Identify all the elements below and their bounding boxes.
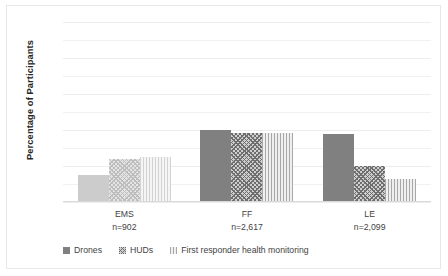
category-name: FF — [186, 208, 309, 221]
bar-le-series-2[interactable] — [385, 179, 416, 202]
plot-area: 100%80%60%40%20%0% — [63, 22, 431, 202]
bar-le-series-1[interactable] — [354, 166, 385, 202]
legend-label: First responder health monitoring — [181, 245, 308, 255]
legend-swatch-icon — [63, 247, 70, 254]
y-axis-title: Percentage of Participants — [25, 10, 35, 190]
bar-group-ff — [186, 22, 309, 202]
category-sample-size: n=2,099 — [308, 221, 431, 234]
category-name: LE — [308, 208, 431, 221]
bar-ff-series-2[interactable] — [262, 133, 293, 202]
legend-label: Drones — [74, 245, 102, 255]
legend-item-1[interactable]: HUDs — [119, 245, 153, 255]
bar-ems-series-0[interactable] — [78, 175, 109, 202]
legend-swatch-icon — [119, 247, 126, 254]
x-axis-line — [63, 201, 431, 202]
bar-le-series-0[interactable] — [323, 134, 354, 202]
gridline — [63, 202, 431, 203]
bar-group-ems — [63, 22, 186, 202]
legend-item-0[interactable]: Drones — [63, 245, 102, 255]
category-sample-size: n=2,617 — [186, 221, 309, 234]
bar-group-le — [308, 22, 431, 202]
legend-item-2[interactable]: First responder health monitoring — [170, 245, 308, 255]
bar-chart: Percentage of Participants 100%80%60%40%… — [0, 0, 448, 276]
category-label-ems: EMSn=902 — [63, 208, 186, 233]
bars-layer — [63, 22, 431, 202]
bar-ems-series-1[interactable] — [109, 159, 140, 202]
category-sample-size: n=902 — [63, 221, 186, 234]
legend-label: HUDs — [130, 245, 153, 255]
legend-swatch-icon — [170, 247, 177, 254]
category-name: EMS — [63, 208, 186, 221]
chart-legend: DronesHUDsFirst responder health monitor… — [63, 245, 431, 255]
bar-ems-series-2[interactable] — [140, 157, 171, 202]
category-label-ff: FFn=2,617 — [186, 208, 309, 233]
bar-ff-series-1[interactable] — [231, 133, 262, 202]
category-label-le: LEn=2,099 — [308, 208, 431, 233]
bar-ff-series-0[interactable] — [200, 130, 231, 202]
